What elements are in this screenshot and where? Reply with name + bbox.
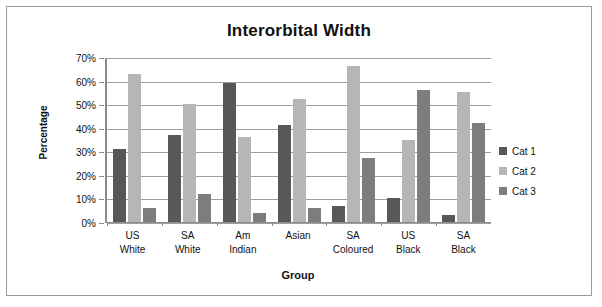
bar-group xyxy=(326,58,381,222)
bar xyxy=(128,74,141,223)
y-tick-label: 30% xyxy=(56,147,96,158)
bar xyxy=(113,149,126,222)
legend-label: Cat 3 xyxy=(512,186,536,197)
x-category-label-line: Am xyxy=(215,229,270,243)
bar-group xyxy=(217,58,272,222)
x-category-label: USBlack xyxy=(381,229,436,271)
plot-inner xyxy=(105,58,491,223)
bar xyxy=(402,140,415,223)
plot-area: 70%60%50%40%30%20%10%0% xyxy=(105,58,491,223)
y-tick-mark xyxy=(99,199,104,200)
x-category-label-line: SA xyxy=(436,229,491,243)
x-axis-title: Group xyxy=(105,269,491,281)
x-tick-mark xyxy=(107,222,108,226)
bar xyxy=(308,208,321,222)
bar xyxy=(457,92,470,222)
legend-swatch-icon xyxy=(499,147,507,155)
x-category-label-line: Black xyxy=(381,243,436,257)
bar xyxy=(238,137,251,222)
x-tick-mark xyxy=(436,222,437,226)
y-tick-label: 50% xyxy=(56,100,96,111)
bar xyxy=(442,215,455,222)
x-category-label-line: SA xyxy=(326,229,381,243)
x-category-label-line: Black xyxy=(436,243,491,257)
y-tick-mark xyxy=(99,176,104,177)
chart-frame: Interorbital Width Percentage 70%60%50%4… xyxy=(6,6,592,296)
x-category-label-line: US xyxy=(105,229,160,243)
bar xyxy=(143,208,156,222)
y-tick-label: 10% xyxy=(56,194,96,205)
bar-group xyxy=(162,58,217,222)
x-category-label-line: US xyxy=(381,229,436,243)
chart-screenshot: Interorbital Width Percentage 70%60%50%4… xyxy=(0,0,602,307)
y-tick-label: 0% xyxy=(56,218,96,229)
x-category-label: AmIndian xyxy=(215,229,270,271)
x-category-label: SABlack xyxy=(436,229,491,271)
bar-group xyxy=(436,58,491,222)
legend-label: Cat 2 xyxy=(512,166,536,177)
x-category-label-line: Asian xyxy=(270,229,325,243)
legend-item[interactable]: Cat 3 xyxy=(499,181,569,201)
y-tick-label: 20% xyxy=(56,170,96,181)
y-tick-mark xyxy=(99,105,104,106)
bar xyxy=(253,213,266,222)
legend-item[interactable]: Cat 1 xyxy=(499,141,569,161)
x-category-label-line: SA xyxy=(160,229,215,243)
bar xyxy=(293,99,306,222)
legend-label: Cat 1 xyxy=(512,146,536,157)
x-category-label: Asian xyxy=(270,229,325,271)
x-tick-mark xyxy=(272,222,273,226)
y-tick-mark xyxy=(99,58,104,59)
legend-swatch-icon xyxy=(499,167,507,175)
bar xyxy=(417,90,430,222)
y-tick-mark xyxy=(99,152,104,153)
x-category-label-line xyxy=(270,243,325,257)
bar xyxy=(278,125,291,222)
x-category-label-line: White xyxy=(105,243,160,257)
y-tick-label: 70% xyxy=(56,53,96,64)
bar xyxy=(223,83,236,222)
bar xyxy=(472,123,485,222)
x-category-label: SAColoured xyxy=(326,229,381,271)
bar xyxy=(168,135,181,222)
x-axis-category-labels: USWhiteSAWhiteAmIndianAsian SAColouredUS… xyxy=(105,229,491,271)
legend-item[interactable]: Cat 2 xyxy=(499,161,569,181)
x-category-label-line: Indian xyxy=(215,243,270,257)
x-tick-mark xyxy=(217,222,218,226)
x-category-label: USWhite xyxy=(105,229,160,271)
legend: Cat 1Cat 2Cat 3 xyxy=(499,141,569,201)
bar-group xyxy=(272,58,327,222)
bar xyxy=(362,158,375,222)
y-axis-title: Percentage xyxy=(38,73,49,193)
bar xyxy=(183,104,196,222)
bar-group xyxy=(107,58,162,222)
y-tick-mark xyxy=(99,82,104,83)
bar xyxy=(198,194,211,222)
x-category-label-line: White xyxy=(160,243,215,257)
bar xyxy=(387,198,400,222)
bars-layer xyxy=(107,58,491,222)
x-tick-mark xyxy=(381,222,382,226)
bar-group xyxy=(381,58,436,222)
gridline xyxy=(107,223,491,224)
y-tick-label: 60% xyxy=(56,76,96,87)
bar xyxy=(332,206,345,223)
legend-swatch-icon xyxy=(499,187,507,195)
x-category-label-line: Coloured xyxy=(326,243,381,257)
y-tick-mark xyxy=(99,223,104,224)
y-tick-label: 40% xyxy=(56,123,96,134)
x-tick-mark xyxy=(326,222,327,226)
y-tick-mark xyxy=(99,129,104,130)
bar xyxy=(347,66,360,222)
chart-title: Interorbital Width xyxy=(7,21,591,41)
x-category-label: SAWhite xyxy=(160,229,215,271)
x-tick-mark xyxy=(162,222,163,226)
